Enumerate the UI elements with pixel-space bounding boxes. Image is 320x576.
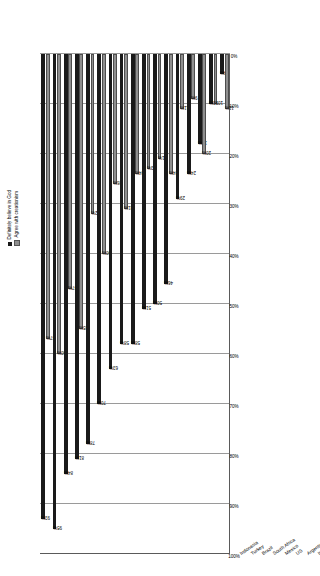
bar-0 [41, 54, 45, 519]
bar-0 [64, 54, 68, 474]
rotated-chart-figure: Definitely believe in God Agree with cre… [0, 0, 258, 576]
bar-0 [120, 54, 124, 344]
bar-1 [46, 54, 50, 339]
bar-1 [214, 54, 218, 104]
bar-1 [124, 54, 128, 209]
value-axis-line [40, 553, 230, 554]
bar-0 [153, 54, 157, 304]
bar-1 [169, 54, 173, 174]
category-labels: IndonesiaTurkeyBrazilSouth AfricaMexicoU… [232, 54, 258, 554]
bar-0 [209, 54, 213, 104]
bar-value-label: 20% [202, 150, 211, 155]
legend-item-1: Agree with creationism [13, 190, 20, 246]
bar-value-label: 29% [176, 195, 185, 200]
gridline [40, 503, 230, 504]
bar-1 [135, 54, 139, 174]
bar-1 [102, 54, 106, 254]
bar-value-label: 84% [64, 470, 73, 475]
bar-1 [91, 54, 95, 214]
bar-1 [147, 54, 151, 169]
legend-item-0: Definitely believe in God [6, 190, 13, 246]
legend-swatch-icon-0 [8, 242, 12, 246]
gridline [40, 453, 230, 454]
bar-value-label: 95% [53, 525, 62, 530]
bar-0 [53, 54, 57, 529]
plot-area: 93%57%95%60%84%47%81%55%78%32%70%40%63%2… [40, 54, 230, 554]
bar-value-label: 70% [97, 400, 106, 405]
bar-value-label: 81% [75, 455, 84, 460]
bar-value-label: 58% [120, 340, 129, 345]
bar-0 [187, 54, 191, 174]
bar-1 [225, 54, 229, 109]
bar-value-label: 58% [131, 340, 140, 345]
bar-value-label: 93% [41, 515, 50, 520]
bar-value-label: 50% [153, 300, 162, 305]
bar-1 [68, 54, 72, 289]
legend-swatch-icon-1 [14, 240, 20, 246]
bar-0 [131, 54, 135, 344]
bar-0 [86, 54, 90, 444]
axis-tick-label: 100% [228, 554, 240, 559]
bar-1 [57, 54, 61, 354]
bar-0 [176, 54, 180, 199]
chart-legend: Definitely believe in God Agree with cre… [6, 190, 20, 246]
legend-label-0: Definitely believe in God [6, 190, 13, 240]
bar-1 [158, 54, 162, 159]
bar-value-label: 24% [187, 170, 196, 175]
bar-0 [97, 54, 101, 404]
bar-value-label: 9% [191, 95, 198, 100]
bar-value-label: 78% [86, 440, 95, 445]
gridline [40, 353, 230, 354]
legend-label-1: Agree with creationism [13, 191, 20, 237]
bar-1 [191, 54, 195, 99]
bar-1 [113, 54, 117, 184]
bar-1 [202, 54, 206, 154]
bar-value-label: 63% [109, 365, 118, 370]
bar-value-label: 10% [214, 100, 223, 105]
bar-1 [79, 54, 83, 329]
bar-0 [198, 54, 202, 144]
gridline [40, 403, 230, 404]
bar-0 [109, 54, 113, 369]
bar-value-label: 51% [142, 305, 151, 310]
bar-0 [75, 54, 79, 459]
gridline [40, 303, 230, 304]
bar-1 [180, 54, 184, 109]
bar-value-label: 46% [164, 280, 173, 285]
chart-canvas: Definitely believe in God Agree with cre… [0, 0, 258, 576]
bar-0 [142, 54, 146, 309]
bar-0 [164, 54, 168, 284]
